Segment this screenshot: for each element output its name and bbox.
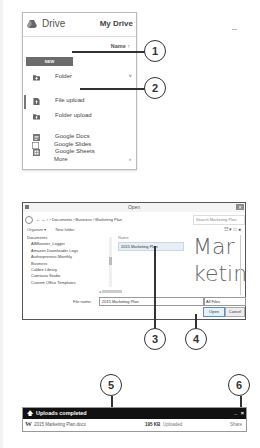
drive-header: Drive My Drive (23, 13, 136, 37)
breadcrumb: › Documents › Business › Marketing Plan (49, 217, 122, 222)
close-button[interactable]: × (241, 408, 244, 419)
dialog-toolbar: Organize ▾ New folder (27, 227, 83, 232)
minimize-button[interactable]: _ (234, 407, 237, 418)
menu-item-folder[interactable]: Folder ˅ (23, 71, 136, 85)
tree-item[interactable]: Fax (27, 286, 105, 287)
share-link[interactable]: Share (230, 419, 242, 430)
divider (232, 29, 237, 30)
callout-2: 2 (144, 77, 166, 99)
slides-icon (32, 142, 39, 149)
open-button[interactable]: Open (203, 307, 225, 317)
close-button[interactable]: ✕ (236, 204, 244, 210)
callout-6: 6 (228, 374, 250, 396)
view-options-icon[interactable]: ☷ ▾ □ ● (224, 226, 241, 232)
drive-menu-lower: Google Slides More › (22, 138, 135, 168)
sort-by-name[interactable]: Name ↑ (111, 43, 130, 49)
chevron-down-icon: ˅ (128, 73, 132, 79)
folder-upload-icon (33, 113, 40, 120)
file-name[interactable]: 2015 Marketing Plan.docx (34, 419, 86, 430)
back-icon[interactable] (25, 216, 33, 224)
file-name-input[interactable]: 2015 Marketing Plan (99, 297, 205, 306)
menu-label: More (54, 156, 68, 162)
chevron-right-icon: › (129, 156, 131, 162)
new-folder-button[interactable]: New folder (55, 227, 74, 232)
file-item-selected[interactable]: 2015 Marketing Plan (118, 242, 184, 251)
app-title: Drive (42, 18, 65, 29)
cancel-button[interactable]: Cancel (225, 307, 245, 317)
search-input[interactable]: Search Marketing Plan (193, 215, 245, 225)
callout-line (72, 51, 152, 53)
file-upload-icon (33, 98, 40, 105)
upload-panel: 🡅 Uploads completed _ × W 2015 Marketing… (22, 407, 247, 432)
menu-item-file-upload[interactable]: File upload (23, 95, 136, 109)
new-button[interactable]: NEW (26, 57, 73, 66)
upload-status: Uploaded (163, 419, 182, 430)
callout-4: 4 (185, 328, 207, 350)
menu-label: File upload (55, 97, 84, 103)
nav-arrows: ← → ↑ (36, 217, 49, 222)
menu-item-google-slides[interactable]: Google Slides (22, 139, 135, 153)
file-name-label: File name: (73, 299, 92, 304)
my-drive-label[interactable]: My Drive (100, 19, 133, 28)
menu-label: Google Slides (54, 141, 91, 147)
address-bar[interactable]: ← → ↑ › Documents › Business › Marketing… (25, 215, 185, 224)
drive-logo-icon (27, 19, 37, 29)
file-size: 195 KB (145, 419, 160, 430)
open-dialog: Open ✕ ← → ↑ › Documents › Business › Ma… (22, 202, 246, 320)
callout-1: 1 (144, 40, 166, 62)
upload-item: W 2015 Marketing Plan.docx 195 KB Upload… (23, 419, 246, 430)
menu-label: Folder upload (55, 112, 92, 118)
callout-line (154, 246, 156, 330)
upload-arrow-icon: 🡅 (27, 408, 33, 419)
menu-label: Folder (55, 73, 72, 79)
page-edge (0, 0, 3, 448)
callout-line (80, 88, 152, 90)
tree-scrollbar[interactable] (109, 237, 112, 287)
menu-item-more[interactable]: More › (22, 154, 135, 168)
preview-scrollbar[interactable] (240, 235, 244, 295)
menu-item-folder-upload[interactable]: Folder upload (23, 110, 136, 124)
callout-5: 5 (100, 374, 122, 396)
scroll-thumb[interactable] (109, 257, 112, 265)
organize-button[interactable]: Organize ▾ (27, 227, 46, 232)
column-header-name[interactable]: Name (118, 235, 129, 240)
dialog-app-icon (25, 205, 29, 209)
active-indicator (24, 95, 26, 109)
horizontal-scrollbar[interactable]: ◂ (99, 289, 149, 293)
upload-header[interactable]: 🡅 Uploads completed _ × (23, 408, 246, 419)
upload-title: Uploads completed (36, 408, 87, 419)
folder-tree: Documents ABBooster_Logger Amazon Downlo… (27, 235, 105, 287)
folder-plus-icon (33, 74, 40, 81)
file-type-select[interactable]: All Files (203, 297, 246, 306)
callout-3: 3 (144, 328, 166, 350)
dialog-title: Open (23, 203, 245, 212)
word-doc-icon: W (25, 419, 32, 430)
